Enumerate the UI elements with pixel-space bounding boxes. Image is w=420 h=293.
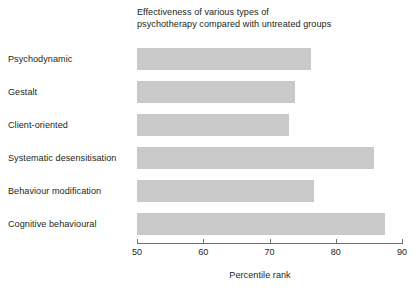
x-tick	[270, 239, 271, 244]
plot-area: PsychodynamicGestaltClient-orientedSyste…	[0, 0, 420, 293]
category-label: Gestalt	[8, 87, 37, 97]
chart-figure: Effectiveness of various types of psycho…	[0, 0, 420, 293]
x-axis-title-text: Percentile rank	[229, 270, 290, 280]
bar-row: Behaviour modification	[0, 174, 420, 207]
bar-row: Cognitive behavioural	[0, 207, 420, 240]
bar-track	[137, 180, 402, 202]
x-tick-label: 70	[264, 247, 274, 257]
category-label: Client-oriented	[8, 120, 68, 130]
category-label: Cognitive behavioural	[8, 219, 97, 229]
bar-row: Psychodynamic	[0, 42, 420, 75]
bar-behaviour-modification	[137, 180, 314, 202]
x-tick-label: 50	[132, 247, 142, 257]
bar-track	[137, 147, 402, 169]
bar-track	[137, 213, 402, 235]
bar-cognitive-behavioural	[137, 213, 385, 235]
bar-track	[137, 81, 402, 103]
bar-row: Systematic desensitisation	[0, 141, 420, 174]
bar-track	[137, 48, 402, 70]
x-tick	[336, 239, 337, 244]
x-axis-line	[137, 243, 402, 244]
x-axis-title: Percentile rank	[0, 270, 420, 280]
x-tick-label: 80	[331, 247, 341, 257]
x-tick	[402, 239, 403, 244]
x-tick	[203, 239, 204, 244]
x-tick	[137, 239, 138, 244]
bar-gestalt	[137, 81, 295, 103]
bar-track	[137, 114, 402, 136]
bar-client-oriented	[137, 114, 289, 136]
x-tick-label: 60	[198, 247, 208, 257]
category-label: Systematic desensitisation	[8, 153, 116, 163]
bar-row: Gestalt	[0, 75, 420, 108]
bar-row: Client-oriented	[0, 108, 420, 141]
category-label: Psychodynamic	[8, 54, 72, 64]
bar-psychodynamic	[137, 48, 311, 70]
bar-systematic-desensitisation	[137, 147, 374, 169]
category-label: Behaviour modification	[8, 186, 101, 196]
x-tick-label: 90	[397, 247, 407, 257]
